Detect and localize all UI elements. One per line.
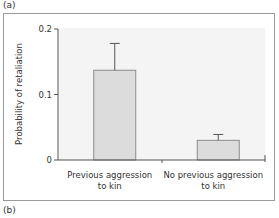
panel-label-b: (b) <box>3 205 16 215</box>
x-category-label: to kin <box>201 181 225 191</box>
y-ticks: 00.10.2 <box>38 24 58 165</box>
category-labels: Previous aggressionto kinNo previous agg… <box>67 170 263 191</box>
bar-chart: 00.10.2 Probability of retaliation Previ… <box>0 0 279 218</box>
y-tick-label: 0.1 <box>38 90 52 100</box>
y-tick-label: 0 <box>47 155 52 165</box>
y-axis-label: Probability of retaliation <box>14 43 24 145</box>
x-category-label: No previous aggression <box>163 170 263 180</box>
y-tick-label: 0.2 <box>38 24 52 34</box>
x-category-label: to kin <box>98 181 122 191</box>
x-category-label: Previous aggression <box>67 170 152 180</box>
bar <box>94 70 136 160</box>
bar <box>197 140 239 160</box>
